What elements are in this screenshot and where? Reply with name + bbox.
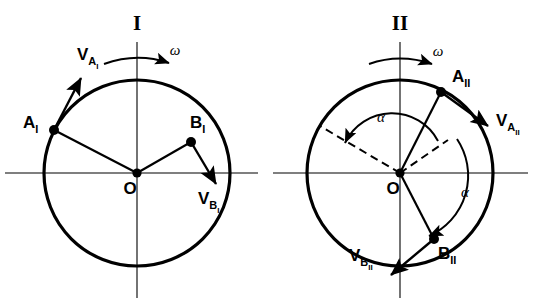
panel-two-point-a-label-sub: II [464,77,470,89]
panel-two-vector-b-label: VBII [349,246,373,272]
panel-two-vector-a-label: VAII [496,111,520,137]
panel-two-point-b-label-main: B [438,244,450,263]
panel-one-center-label: O [123,179,136,198]
panel-two-center-dot [395,168,404,177]
panel-one-vector-b-label-sub: B [209,199,217,211]
panel-one-vector-a-label-subsub: I [96,62,98,71]
panel-two-vector-b-label-subsub: II [368,263,372,272]
panel-two-dashed-reference-upper [320,126,400,173]
panel-two-alpha-label-upper: α [377,109,386,125]
panel-one-vector-a-label-sub: A [88,55,96,67]
panel-two-vector-a-label-main: V [496,111,508,130]
panel-two-alpha-arc-upper [345,113,438,143]
panel-two-vector-b [391,239,434,275]
panel-two-vector-a-label-subsub: II [515,128,519,137]
panel-two-radius-oa [400,92,441,173]
panel-two-center-label: O [386,179,399,198]
panel-one-center-dot [132,168,141,177]
panel-two-vector-b-label-main: V [349,246,361,265]
panel-two-vector-a [441,92,488,126]
panel-one-point-a-label: AI [23,113,38,135]
panel-one-vector-b-label-subsub: I [217,206,219,215]
diagram-canvas: I ω O AI BI VAI VBI [0,0,538,305]
panel-one-point-b-dot [186,137,196,147]
panel-one-vector-b-label: VBI [198,189,220,215]
panel-one-point-b-label-sub: I [202,123,205,135]
panel-two-omega-label: ω [433,43,444,59]
panel-one-group: I ω O AI BI VAI VBI [5,11,258,298]
panel-two-point-a-label: AII [452,67,470,89]
panel-one-title: I [133,11,141,35]
panel-one-point-b-label: BI [190,113,205,135]
panel-one-point-a-label-sub: I [35,123,38,135]
panel-two-point-a-dot [436,87,446,97]
panel-one-radius-oa [54,130,137,173]
panel-two-vector-b-label-sub: B [360,256,368,268]
panel-one-vector-b [191,142,216,184]
panel-two-vector-a-label-sub: A [507,121,515,133]
panel-one-vector-b-label-main: V [198,189,210,208]
panel-one-point-b-label-main: B [190,113,202,132]
physics-figure: I ω O AI BI VAI VBI [0,0,538,305]
panel-two-alpha-label-lower: α [461,184,470,200]
panel-two-title: II [392,11,408,35]
panel-two-radius-ob [400,173,434,239]
panel-two-point-a-label-main: A [452,67,464,86]
panel-one-radius-ob [137,142,191,173]
panel-one-point-a-label-main: A [23,113,35,132]
panel-one-point-a-dot [49,125,59,135]
panel-two-point-b-label-sub: II [450,254,456,266]
panel-two-group: II ω O α α AII BII VAII VBII [273,11,528,298]
panel-one-omega-label: ω [170,42,181,58]
panel-two-point-b-dot [429,234,439,244]
panel-one-vector-a-label-main: V [77,45,89,64]
panel-one-vector-a-label: VAI [77,45,99,71]
